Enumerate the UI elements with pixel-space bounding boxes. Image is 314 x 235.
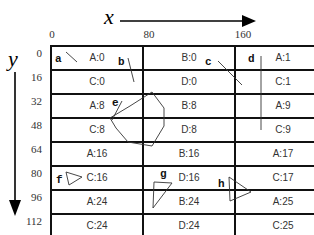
cell-label: C:17 (272, 172, 294, 183)
object-label-c: c (205, 56, 212, 68)
x-axis-arrow (120, 15, 256, 27)
object-label-d: d (248, 53, 255, 65)
object-label-a: a (55, 53, 62, 65)
y-tick-80: 80 (31, 167, 43, 179)
object-label-h: h (218, 178, 225, 190)
object-label-g: g (160, 168, 167, 180)
cell-label: C:1 (275, 76, 291, 87)
object-c-line (218, 61, 242, 85)
object-f-triangle (66, 172, 82, 185)
cell-label: B:0 (181, 52, 196, 63)
cell-label: C:25 (272, 220, 294, 231)
cell-label: A:24 (87, 196, 108, 207)
object-label-f: f (56, 174, 63, 186)
y-axis-label: y (6, 46, 18, 71)
cell-label: D:8 (181, 124, 197, 135)
x-tick-160: 160 (235, 28, 252, 40)
y-tick-64: 64 (31, 143, 43, 155)
object-g-triangle (153, 182, 172, 208)
x-tick-80: 80 (144, 28, 156, 40)
y-tick-0: 0 (37, 47, 43, 59)
cell-label: A:17 (273, 148, 294, 159)
y-tick-112: 112 (26, 215, 42, 227)
cell-label: D:24 (178, 220, 200, 231)
y-tick-48: 48 (31, 119, 43, 131)
cell-label: C:16 (86, 172, 108, 183)
cell-label: D:0 (181, 76, 197, 87)
y-tick-96: 96 (31, 191, 43, 203)
x-axis-label: x (103, 4, 114, 29)
y-tick-32: 32 (31, 95, 42, 107)
y-tick-16: 16 (31, 71, 43, 83)
object-label-e: e (112, 97, 119, 109)
y-axis-arrow (9, 72, 21, 216)
cell-label: C:24 (86, 220, 108, 231)
cell-label: A:16 (87, 148, 108, 159)
cell-label: C:8 (89, 124, 105, 135)
spatial-grid-diagram: x 0 80 160 y 0 16 32 48 64 80 96 112 A:0… (0, 0, 314, 235)
x-tick-0: 0 (49, 28, 55, 40)
cell-label: B:8 (181, 100, 196, 111)
cell-label: B:16 (179, 148, 200, 159)
object-a-line (66, 52, 77, 62)
cell-label: D:16 (178, 172, 200, 183)
cell-label: A:25 (273, 196, 294, 207)
cell-label: B:24 (179, 196, 200, 207)
cell-label: A:0 (89, 52, 104, 63)
cell-label: A:8 (89, 100, 104, 111)
cell-label: A:9 (275, 100, 290, 111)
object-label-b: b (118, 56, 125, 68)
cell-label: A:1 (275, 52, 290, 63)
cell-label: C:9 (275, 124, 291, 135)
object-labels: a b c d e f g h (55, 53, 255, 190)
cell-label: C:0 (89, 76, 105, 87)
